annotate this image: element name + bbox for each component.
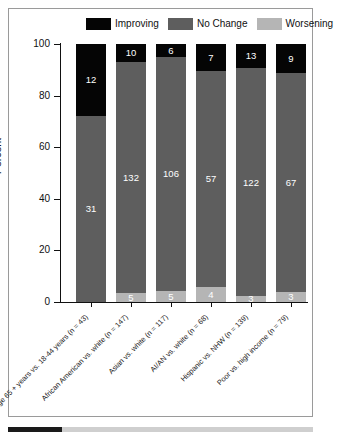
- bar-segment-value: 31: [86, 204, 97, 214]
- y-axis-tick: [54, 250, 60, 251]
- bar-segment-improving[interactable]: 9: [276, 44, 306, 73]
- bar-segment-worsening[interactable]: 3: [236, 296, 266, 302]
- x-axis-tick: [171, 302, 172, 307]
- bottom-strip-accent: [8, 427, 62, 432]
- bar-segment-value: 106: [163, 169, 179, 179]
- y-axis-tick: [54, 96, 60, 97]
- y-axis-tick-label: 60: [20, 142, 50, 152]
- bar-segment-value: 6: [168, 46, 173, 56]
- bar-segment-improving[interactable]: 13: [236, 44, 266, 68]
- bar-segment-value: 5: [168, 292, 173, 302]
- y-axis-tick-value: 100: [22, 39, 50, 49]
- bar-segment-no-change[interactable]: 57: [196, 71, 226, 287]
- bar-stack[interactable]: 3679: [276, 44, 306, 302]
- y-axis-tick-value: 0: [22, 297, 50, 307]
- bar-segment-no-change[interactable]: 122: [236, 68, 266, 296]
- legend-item-worsening: Worsening: [257, 18, 334, 30]
- y-axis-line: [60, 43, 61, 303]
- bar-segment-no-change[interactable]: 106: [156, 57, 186, 291]
- legend-swatch-worsening: [257, 18, 282, 30]
- bar-segment-worsening[interactable]: 5: [156, 291, 186, 302]
- y-axis-tick-label: 80: [20, 91, 50, 101]
- legend-label-no-change: No Change: [197, 18, 248, 30]
- y-axis-tick-label: 0: [20, 297, 50, 307]
- legend-swatch-no-change: [168, 18, 193, 30]
- bar-segment-improving[interactable]: 10: [116, 44, 146, 62]
- bar-segment-value: 7: [208, 53, 213, 63]
- bar-segment-value: 4: [208, 290, 213, 300]
- y-axis-tick: [54, 44, 60, 45]
- bar-stack[interactable]: 513210: [116, 44, 146, 302]
- y-axis-tick-value: 80: [22, 91, 50, 101]
- legend-swatch-improving: [86, 18, 111, 30]
- bar-segment-worsening[interactable]: 4: [196, 287, 226, 302]
- y-axis-tick-value: 20: [22, 245, 50, 255]
- y-axis-tick-label: 40: [20, 194, 50, 204]
- y-axis-tick-value: 40: [22, 194, 50, 204]
- y-axis-tick-label: 20: [20, 245, 50, 255]
- bar-segment-value: 10: [126, 48, 137, 58]
- y-axis-tick-label: 100: [20, 39, 50, 49]
- bar-segment-improving[interactable]: 6: [156, 44, 186, 57]
- bar-stack[interactable]: 3112: [76, 44, 106, 302]
- y-axis-tick: [54, 302, 60, 303]
- bar-segment-no-change[interactable]: 132: [116, 62, 146, 294]
- legend-label-improving: Improving: [115, 18, 159, 30]
- bar-segment-value: 12: [86, 75, 97, 85]
- plot-area: 31125132105106645773122133679: [62, 44, 306, 302]
- y-axis-title: Percent: [0, 138, 3, 174]
- legend-item-no-change: No Change: [168, 18, 248, 30]
- bar-segment-value: 3: [288, 292, 293, 302]
- bar-segment-value: 57: [206, 174, 217, 184]
- bar-stack[interactable]: 4577: [196, 44, 226, 302]
- x-axis-line: [60, 302, 308, 303]
- x-axis-tick: [291, 302, 292, 307]
- bar-segment-value: 5: [128, 293, 133, 303]
- chart-legend: Improving No Change Worsening: [86, 17, 338, 30]
- bar-segment-worsening[interactable]: 5: [116, 293, 146, 302]
- bar-segment-worsening[interactable]: 3: [276, 292, 306, 302]
- y-axis-tick: [54, 147, 60, 148]
- legend-label-worsening: Worsening: [286, 18, 334, 30]
- bar-segment-value: 122: [243, 178, 259, 188]
- bar-segment-improving[interactable]: 7: [196, 44, 226, 71]
- bar-segment-value: 13: [246, 51, 257, 61]
- bar-segment-value: 132: [123, 173, 139, 183]
- bar-stack[interactable]: 312213: [236, 44, 266, 302]
- y-axis-tick: [54, 199, 60, 200]
- bar-stack[interactable]: 51066: [156, 44, 186, 302]
- bar-segment-improving[interactable]: 12: [76, 44, 106, 116]
- legend-item-improving: Improving: [86, 18, 159, 30]
- bar-segment-value: 9: [288, 54, 293, 64]
- bar-segment-value: 67: [286, 178, 297, 188]
- x-axis-tick: [211, 302, 212, 307]
- y-axis-tick-value: 60: [22, 142, 50, 152]
- x-axis-tick: [91, 302, 92, 307]
- bar-segment-no-change[interactable]: 31: [76, 116, 106, 302]
- bar-segment-no-change[interactable]: 67: [276, 73, 306, 292]
